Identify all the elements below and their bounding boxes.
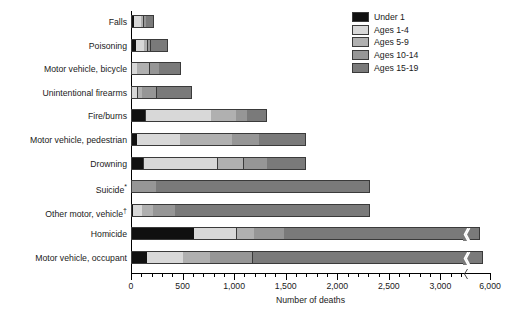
x-tick-minor [162,273,163,277]
legend-item[interactable]: Under 1 [352,11,418,24]
chart-root: FallsPoisoningMotor vehicle, bicycleUnin… [0,0,522,315]
x-tick-minor [306,273,307,277]
category-axis-labels: FallsPoisoningMotor vehicle, bicycleUnin… [0,0,127,275]
bar-segment [254,227,285,240]
x-tick-minor [224,273,225,277]
bar-row [131,39,168,52]
legend-swatch [352,63,369,73]
x-tick-label: 2,000 [326,281,348,291]
legend-swatch [352,12,369,22]
x-tick-minor [358,273,359,277]
bar-segment [144,157,219,170]
bar-segment [183,251,211,264]
bar-segment [146,109,212,122]
bar-segment [284,227,480,240]
legend-label: Ages 5-9 [374,37,409,47]
bar-row [131,109,267,122]
bar-segment [131,180,157,193]
x-tick-minor [172,273,173,277]
x-axis-title: Number of deaths [131,295,490,305]
x-tick-minor [152,273,153,277]
bar-row [131,62,181,75]
x-tick-minor [461,273,462,277]
bar-row [131,86,192,99]
bar-row [131,15,154,28]
bar-row [131,157,306,170]
x-tick-minor [409,273,410,277]
category-label: Poisoning [89,42,127,51]
bar-segment [259,133,306,146]
bar-segment [147,251,184,264]
legend-item[interactable]: Ages 10-14 [352,49,418,62]
legend-label: Ages 10-14 [374,50,418,60]
legend-swatch [352,25,369,35]
legend-label: Ages 15-19 [374,63,418,73]
legend: Under 1Ages 1-4Ages 5-9Ages 10-14Ages 15… [352,11,418,74]
x-tick-major [440,273,441,280]
x-tick-minor [420,273,421,277]
x-tick-minor [275,273,276,277]
category-label: Suicide* [96,183,127,195]
x-tick-label: 3,000 [430,281,452,291]
bar-segment [131,227,195,240]
x-tick-minor [368,273,369,277]
bar-segment [151,39,168,52]
category-label: Motor vehicle, bicycle [44,65,127,74]
bar-segment [131,251,148,264]
x-tick-major [131,273,132,280]
bar-row [131,204,370,217]
x-tick-minor [327,273,328,277]
bar-segment [267,157,306,170]
bar-segment [157,86,192,99]
x-tick-major [389,273,390,280]
bar-segment [131,157,144,170]
category-label: Motor vehicle, occupant [35,254,127,263]
bar-row [131,227,480,240]
category-label: Unintentional firearms [43,89,128,98]
bar-segment [253,251,483,264]
plot-area [131,11,490,271]
x-tick-minor [317,273,318,277]
x-tick-minor [430,273,431,277]
x-tick-major [183,273,184,280]
legend-item[interactable]: Ages 15-19 [352,61,418,74]
x-tick-minor [141,273,142,277]
bar-segment [232,133,259,146]
bar-segment [247,109,267,122]
x-tick-minor [451,273,452,277]
legend-label: Under 1 [374,12,405,22]
x-tick-minor [379,273,380,277]
x-tick-minor [265,273,266,277]
bar-segment [137,133,181,146]
bar-segment [237,227,255,240]
x-tick-major [286,273,287,280]
legend-swatch [352,50,369,60]
x-tick-label: 1,500 [275,281,297,291]
x-tick-minor [244,273,245,277]
bar-segment [159,62,181,75]
x-tick-label: 1,000 [223,281,245,291]
bar-segment [142,86,157,99]
category-label: Motor vehicle, pedestrian [30,136,127,145]
x-tick-minor [193,273,194,277]
bar-row [131,251,483,264]
x-tick-major [337,273,338,280]
x-tick-label: 0 [129,281,134,291]
legend-item[interactable]: Ages 1-4 [352,24,418,37]
bar-segment [137,62,150,75]
bar-row [131,133,306,146]
x-tick-minor [203,273,204,277]
category-label: Homicide [91,230,127,239]
bar-segment [146,15,154,28]
legend-item[interactable]: Ages 5-9 [352,36,418,49]
bar-segment [210,251,253,264]
category-label: Drowning [90,160,127,169]
bar-segment [218,157,245,170]
bar-segment [194,227,237,240]
x-axis-line [131,273,490,274]
bar-row [131,180,370,193]
bar-segment [244,157,268,170]
x-tick-minor [296,273,297,277]
x-tick-label: 6,000 [479,281,501,291]
x-tick-minor [255,273,256,277]
